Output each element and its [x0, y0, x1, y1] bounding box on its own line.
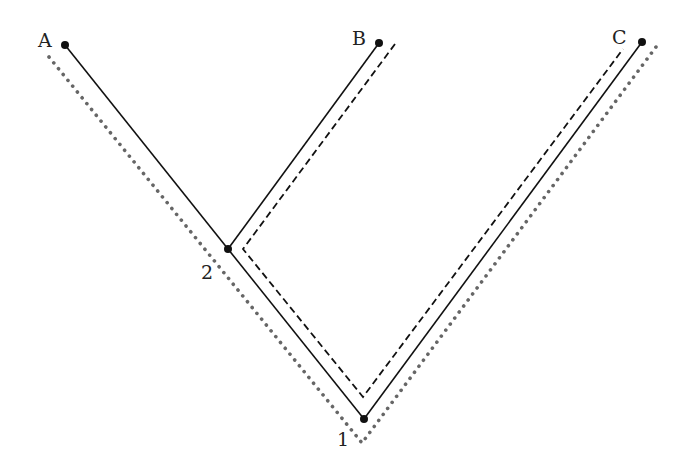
- leaf-node-a: [61, 41, 69, 49]
- label-node-1: 1: [337, 428, 349, 450]
- internal-node-2: [224, 245, 232, 253]
- internal-node-1: [360, 415, 368, 423]
- leaf-node-c: [638, 38, 646, 46]
- dashed-path-b-to-c: [243, 44, 623, 397]
- leaf-node-b: [375, 39, 383, 47]
- tree-diagram: A B C 2 1: [0, 0, 682, 463]
- branch-1-to-c: [364, 42, 642, 419]
- label-node-2: 2: [201, 261, 213, 283]
- branch-2-to-b: [228, 43, 379, 249]
- label-a: A: [37, 29, 52, 51]
- label-c: C: [612, 26, 627, 48]
- branch-2-to-a: [65, 45, 228, 249]
- branch-1-to-2: [228, 249, 364, 419]
- label-b: B: [352, 27, 366, 49]
- dotted-path-a-to-c: [49, 47, 656, 443]
